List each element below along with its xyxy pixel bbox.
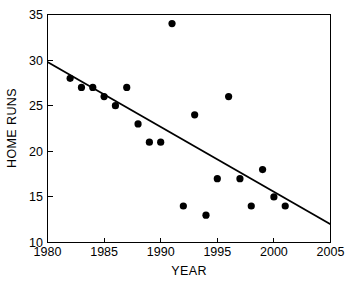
scatter-plot-canvas: 35 30 25 20 15 10 1980 1985 1990 1995 20… xyxy=(0,0,355,284)
data-point xyxy=(259,166,266,173)
data-point xyxy=(101,93,108,100)
y-tick-label-20: 20 xyxy=(29,145,43,159)
y-tick-label-30: 30 xyxy=(29,54,43,68)
data-point xyxy=(282,202,289,209)
data-point xyxy=(214,175,221,182)
y-axis-title: HOME RUNS xyxy=(5,88,19,168)
data-point xyxy=(123,84,130,91)
chart-figure: 35 30 25 20 15 10 1980 1985 1990 1995 20… xyxy=(0,0,355,284)
data-point xyxy=(180,202,187,209)
x-axis-ticks xyxy=(48,238,331,243)
data-point xyxy=(157,139,164,146)
y-tick-label-15: 15 xyxy=(29,190,43,204)
plot-frame xyxy=(48,15,331,243)
x-tick-label-1990: 1990 xyxy=(147,245,175,259)
y-tick-label-35: 35 xyxy=(29,8,43,22)
x-tick-labels: 1980 1985 1990 1995 2000 2005 xyxy=(34,245,345,259)
data-point xyxy=(236,175,243,182)
data-point xyxy=(270,193,277,200)
y-axis-ticks xyxy=(48,15,53,243)
x-axis-title: YEAR xyxy=(171,264,207,278)
data-point xyxy=(67,75,74,82)
data-point xyxy=(248,202,255,209)
data-point xyxy=(191,111,198,118)
data-points-group xyxy=(67,20,289,219)
x-tick-label-1995: 1995 xyxy=(203,245,231,259)
x-tick-label-2000: 2000 xyxy=(260,245,288,259)
x-tick-label-1985: 1985 xyxy=(90,245,118,259)
data-point xyxy=(202,212,209,219)
data-point xyxy=(168,20,175,27)
data-point xyxy=(146,139,153,146)
x-tick-label-2005: 2005 xyxy=(317,245,345,259)
data-point xyxy=(112,102,119,109)
data-point xyxy=(225,93,232,100)
x-tick-label-1980: 1980 xyxy=(34,245,62,259)
data-point xyxy=(134,120,141,127)
data-point xyxy=(78,84,85,91)
y-tick-label-25: 25 xyxy=(29,99,43,113)
data-point xyxy=(89,84,96,91)
y-tick-labels: 35 30 25 20 15 10 xyxy=(29,8,43,250)
